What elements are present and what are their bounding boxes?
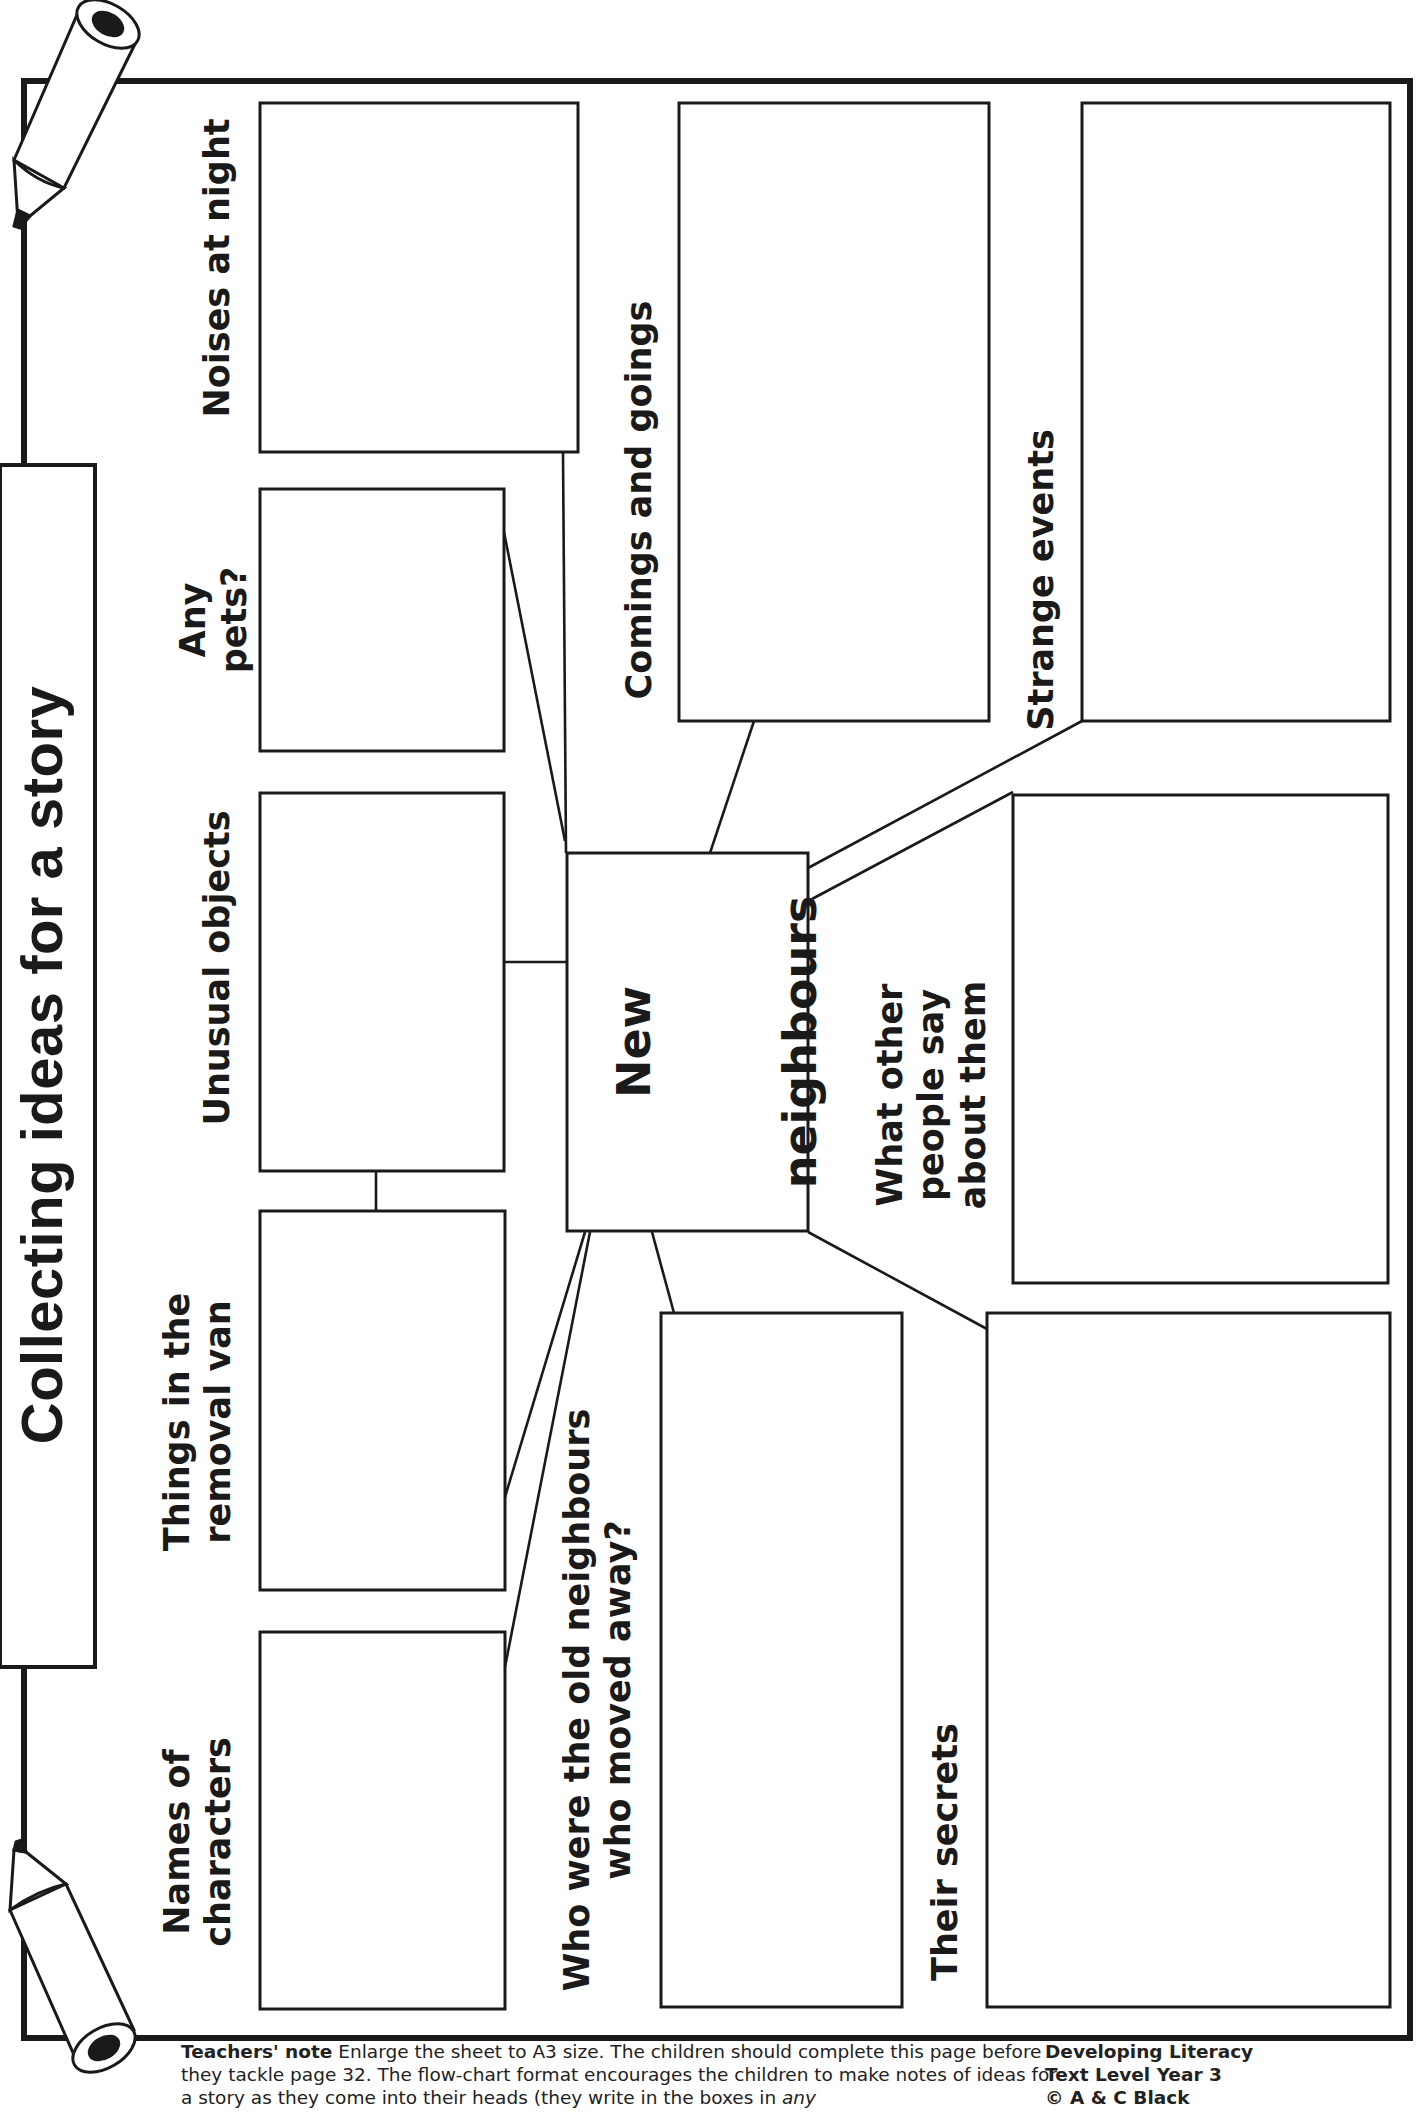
label-old-neighbours: Who were the old neighbours who moved aw… bbox=[557, 1409, 640, 1992]
teachers-note-emphasis: any bbox=[782, 2087, 816, 2108]
box-old-neighbours[interactable] bbox=[661, 1313, 902, 2007]
pencil-icon-bottom bbox=[10, 1840, 143, 2082]
label-things-in-van: Things in the removal van bbox=[157, 1293, 240, 1551]
box-comings-and-goings[interactable] bbox=[679, 103, 989, 721]
label-what-others-say: What other people say about them bbox=[870, 981, 994, 1209]
label-unusual-objects: Unusual objects bbox=[197, 811, 238, 1126]
teachers-note: Teachers' note Enlarge the sheet to A3 s… bbox=[181, 2040, 1061, 2109]
box-their-secrets[interactable] bbox=[987, 1313, 1390, 2007]
label-any-pets: Any pets? bbox=[173, 567, 256, 674]
box-names-of-characters[interactable] bbox=[260, 1632, 505, 2009]
center-node-label: New neighbours bbox=[497, 896, 883, 1189]
label-their-secrets: Their secrets bbox=[925, 1723, 966, 1981]
label-strange-events: Strange events bbox=[1021, 429, 1062, 730]
teachers-note-heading: Teachers' note bbox=[181, 2041, 332, 2062]
box-any-pets[interactable] bbox=[260, 489, 504, 751]
label-noises-at-night: Noises at night bbox=[197, 118, 238, 417]
label-names-of-characters: Names of characters bbox=[157, 1737, 240, 1946]
credit-line-3: © A & C Black bbox=[1045, 2086, 1253, 2109]
page-title: Collecting ideas for a story bbox=[8, 686, 76, 1445]
box-unusual-objects[interactable] bbox=[260, 793, 504, 1171]
pencil-icon-top bbox=[14, 0, 147, 228]
box-things-in-van[interactable] bbox=[260, 1211, 505, 1590]
center-node-line2: neighbours bbox=[773, 896, 828, 1189]
box-noises-at-night[interactable] bbox=[260, 103, 578, 452]
label-comings-and-goings: Comings and goings bbox=[619, 301, 660, 700]
credit-line-2: Text Level Year 3 bbox=[1045, 2063, 1253, 2086]
center-node-line1: New bbox=[607, 896, 662, 1189]
credit-line-1: Developing Literacy bbox=[1045, 2040, 1253, 2063]
box-what-others-say[interactable] bbox=[1013, 795, 1388, 1283]
box-strange-events[interactable] bbox=[1082, 103, 1390, 721]
publisher-credit: Developing Literacy Text Level Year 3 © … bbox=[1045, 2040, 1253, 2109]
